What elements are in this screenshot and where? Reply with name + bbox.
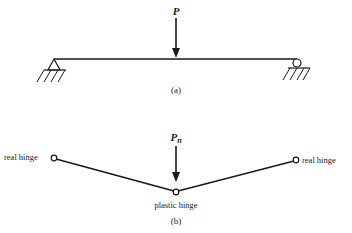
caption-b: (b) bbox=[171, 216, 182, 226]
load-label-pn: Pn bbox=[170, 131, 182, 145]
real-hinge-right-icon bbox=[293, 157, 299, 163]
load-label-p: P bbox=[173, 5, 180, 17]
pin-support-icon bbox=[37, 59, 66, 82]
load-arrow-icon bbox=[172, 146, 180, 182]
figure-b: Pn real hinge real hinge plastic hinge (… bbox=[4, 131, 336, 226]
diagram-canvas: P (a) Pn bbox=[0, 0, 352, 233]
right-segment bbox=[178, 161, 294, 191]
roller-support-icon bbox=[283, 59, 310, 80]
label-real-hinge-right: real hinge bbox=[302, 155, 336, 165]
caption-a: (a) bbox=[171, 85, 181, 95]
real-hinge-left-icon bbox=[51, 155, 57, 161]
load-arrow-icon bbox=[172, 18, 180, 58]
figure-a: P (a) bbox=[37, 5, 310, 95]
left-segment bbox=[56, 159, 174, 191]
plastic-hinge-icon bbox=[173, 189, 179, 195]
label-plastic-hinge: plastic hinge bbox=[154, 200, 197, 210]
label-real-hinge-left: real hinge bbox=[4, 152, 38, 162]
